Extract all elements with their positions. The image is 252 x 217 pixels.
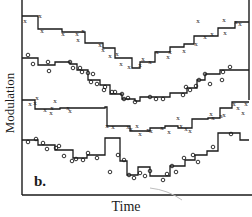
x-marker: x	[38, 12, 42, 20]
step-line	[22, 16, 249, 68]
x-marker: x	[119, 60, 123, 68]
circle-marker	[70, 159, 74, 163]
figure: xxxxxxxxxxxxxxxxxxxxxxxxxxxxxxxxxxxxxxxx…	[0, 0, 252, 217]
circle-marker	[86, 151, 90, 155]
step-line	[22, 58, 249, 101]
x-marker: x	[166, 53, 170, 61]
circle-marker	[108, 170, 112, 174]
x-marker: x	[182, 47, 186, 55]
circle-marker	[208, 82, 212, 86]
x-marker: x	[53, 97, 57, 105]
circle-marker	[138, 171, 142, 175]
x-marker: x	[108, 52, 112, 60]
circle-marker	[71, 66, 75, 70]
series-group: xxxxxxxxxxxxxxxxxxxxxxxxxxxxxxxxxxxxxxxx…	[22, 12, 249, 182]
x-marker: x	[236, 104, 240, 112]
circle-marker	[184, 85, 188, 89]
x-marker: x	[76, 36, 80, 44]
x-marker: x	[148, 58, 152, 66]
x-marker: x	[28, 100, 32, 108]
series-trace-4	[22, 132, 249, 182]
circle-marker	[165, 172, 169, 176]
x-marker: x	[111, 123, 115, 131]
x-marker: x	[167, 128, 171, 136]
step-line	[22, 133, 249, 176]
circle-marker	[45, 147, 49, 151]
x-marker: x	[176, 114, 180, 122]
circle-marker	[196, 160, 200, 164]
x-marker: x	[141, 55, 145, 63]
x-marker: x	[211, 114, 215, 122]
circle-marker	[91, 72, 95, 76]
x-marker: x	[105, 122, 109, 130]
circle-marker	[161, 178, 165, 182]
circle-marker	[143, 174, 147, 178]
circle-marker	[31, 62, 35, 66]
x-marker: x	[40, 27, 44, 35]
circle-marker	[191, 153, 195, 157]
circle-marker	[95, 156, 99, 160]
x-marker: x	[210, 30, 214, 38]
x-marker: x	[50, 104, 54, 112]
x-marker: x	[179, 122, 183, 130]
circle-marker	[188, 88, 192, 92]
x-marker: x	[241, 109, 245, 117]
circle-marker	[220, 78, 224, 82]
circle-marker	[95, 82, 99, 86]
circle-marker	[26, 140, 30, 144]
x-marker: x	[223, 29, 227, 37]
x-marker: x	[129, 125, 133, 133]
circle-marker	[181, 93, 185, 97]
x-marker: x	[149, 127, 153, 135]
x-marker: x	[196, 17, 200, 25]
circle-marker	[221, 70, 225, 74]
circle-marker	[228, 65, 232, 69]
x-marker: x	[101, 46, 105, 54]
circle-marker	[211, 145, 215, 149]
x-marker: x	[203, 33, 207, 41]
circle-marker	[26, 53, 30, 57]
x-marker: x	[43, 106, 47, 114]
x-marker: x	[160, 124, 164, 132]
x-marker: x	[188, 127, 192, 135]
circle-marker	[80, 70, 84, 74]
x-marker: x	[35, 94, 39, 102]
circle-marker	[174, 170, 178, 174]
x-marker: x	[81, 27, 85, 35]
circle-marker	[46, 60, 50, 64]
circle-marker	[161, 97, 165, 101]
circle-marker	[154, 97, 158, 101]
x-marker: x	[61, 30, 65, 38]
circle-marker	[57, 144, 61, 148]
circle-marker	[62, 154, 66, 158]
circle-marker	[81, 158, 85, 162]
y-axis-label: Modulation	[2, 63, 18, 143]
x-marker: x	[23, 17, 27, 25]
x-marker: x	[135, 122, 139, 130]
x-marker: x	[115, 50, 119, 58]
x-marker: x	[244, 100, 248, 108]
circle-marker	[182, 156, 186, 160]
x-axis-label: Time	[0, 199, 252, 215]
circle-marker	[89, 80, 93, 84]
x-marker: x	[127, 63, 131, 71]
x-marker: x	[68, 107, 72, 115]
x-marker: x	[222, 111, 226, 119]
x-marker: x	[238, 20, 242, 28]
circle-marker	[41, 141, 45, 145]
x-marker: x	[222, 16, 226, 24]
x-marker: x	[194, 40, 198, 48]
x-marker: x	[155, 48, 159, 56]
x-marker: x	[138, 130, 142, 138]
circle-marker	[132, 176, 136, 180]
circle-marker	[47, 69, 51, 73]
circle-marker	[116, 153, 120, 157]
circle-marker	[78, 66, 82, 70]
panel-label: b.	[34, 173, 46, 190]
